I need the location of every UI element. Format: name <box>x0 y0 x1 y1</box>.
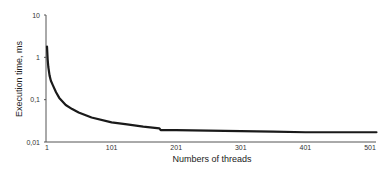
axes <box>46 15 376 142</box>
y-tick-label: 10 <box>32 12 40 19</box>
y-tick-label: 0,01 <box>26 139 40 146</box>
execution-time-chart: 1010,10,01 1101201301401501 Numbers of t… <box>0 0 392 170</box>
y-tick-labels: 1010,10,01 <box>26 12 46 146</box>
y-tick-label: 0,1 <box>30 96 40 103</box>
x-axis-title: Numbers of threads <box>172 154 252 164</box>
x-tick-label: 1 <box>45 144 49 151</box>
chart-canvas: 1010,10,01 1101201301401501 Numbers of t… <box>0 0 392 170</box>
x-tick-label: 301 <box>235 144 247 151</box>
x-tick-label: 401 <box>300 144 312 151</box>
y-axis-title: Execution time, ms <box>14 40 24 117</box>
execution-time-line <box>47 47 376 133</box>
x-tick-labels: 1101201301401501 <box>45 144 376 151</box>
x-tick-label: 101 <box>106 144 118 151</box>
y-tick-label: 1 <box>36 54 40 61</box>
x-tick-label: 201 <box>170 144 182 151</box>
x-tick-label: 501 <box>364 144 376 151</box>
